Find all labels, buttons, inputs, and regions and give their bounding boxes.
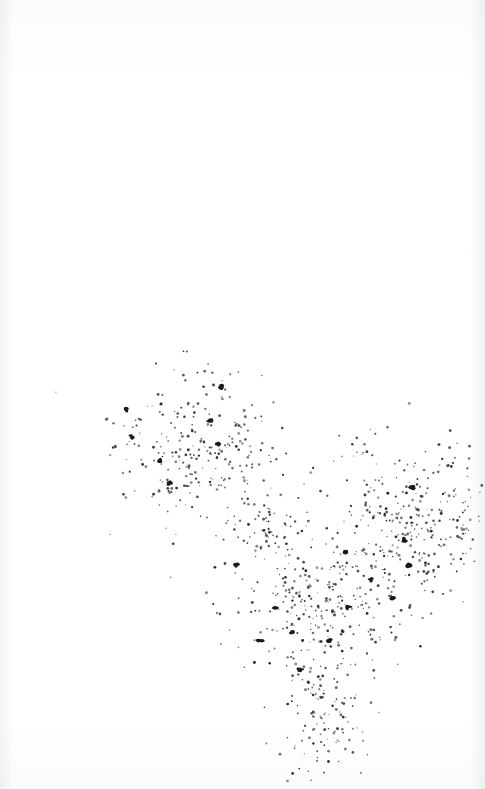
dot bbox=[170, 422, 172, 424]
dot bbox=[225, 522, 227, 524]
dot bbox=[171, 451, 173, 453]
dot bbox=[186, 466, 188, 468]
dot bbox=[416, 514, 418, 516]
dot bbox=[220, 485, 222, 487]
dot bbox=[262, 518, 265, 521]
dot bbox=[258, 463, 261, 466]
dot bbox=[326, 495, 329, 498]
dot bbox=[268, 511, 271, 514]
dot bbox=[381, 530, 383, 532]
dot bbox=[336, 727, 339, 730]
dot bbox=[183, 416, 185, 418]
dot bbox=[337, 665, 339, 667]
dot bbox=[181, 435, 184, 438]
dot bbox=[157, 393, 160, 396]
dot bbox=[296, 632, 298, 634]
dot bbox=[448, 446, 451, 449]
dot bbox=[343, 521, 345, 523]
dot bbox=[346, 479, 348, 481]
dot bbox=[344, 604, 345, 605]
dot bbox=[275, 552, 276, 553]
dot bbox=[214, 452, 216, 454]
dot bbox=[306, 649, 307, 650]
dot bbox=[254, 550, 256, 552]
dot bbox=[355, 437, 358, 440]
dot bbox=[278, 609, 279, 610]
dot bbox=[237, 611, 239, 613]
dot bbox=[439, 464, 441, 466]
dot bbox=[368, 606, 370, 608]
dot bbox=[334, 701, 335, 702]
dot bbox=[205, 591, 208, 594]
dot bbox=[406, 533, 409, 536]
dot-blob bbox=[219, 384, 224, 388]
dot bbox=[444, 492, 446, 494]
dot bbox=[301, 530, 304, 533]
dot bbox=[294, 745, 296, 747]
dot bbox=[384, 568, 386, 570]
dot bbox=[182, 462, 184, 464]
dot-blob bbox=[157, 460, 162, 463]
dot bbox=[430, 612, 432, 614]
dot bbox=[432, 472, 434, 474]
dot bbox=[285, 596, 287, 598]
dot bbox=[185, 504, 186, 505]
dot bbox=[260, 415, 262, 417]
dot bbox=[401, 533, 404, 536]
dot bbox=[329, 598, 332, 601]
dot bbox=[364, 494, 367, 497]
dot bbox=[152, 493, 155, 496]
dot bbox=[307, 681, 310, 684]
dot bbox=[267, 536, 269, 538]
dot bbox=[370, 487, 372, 489]
dot bbox=[202, 385, 205, 388]
dot bbox=[434, 523, 436, 525]
dot bbox=[343, 658, 345, 660]
dot bbox=[480, 484, 483, 487]
dot bbox=[337, 739, 339, 741]
dot bbox=[134, 443, 136, 445]
dot bbox=[297, 713, 299, 715]
dot bbox=[126, 459, 127, 460]
dot bbox=[437, 470, 440, 473]
dot bbox=[374, 641, 377, 644]
dot bbox=[194, 471, 197, 474]
dot bbox=[331, 611, 334, 614]
dot bbox=[260, 548, 262, 550]
dot bbox=[243, 479, 246, 482]
dot bbox=[325, 597, 328, 600]
dot bbox=[372, 669, 375, 672]
dot bbox=[469, 518, 472, 521]
dot bbox=[204, 446, 205, 447]
dot bbox=[318, 699, 320, 701]
dot bbox=[219, 449, 221, 451]
dot bbox=[286, 515, 288, 517]
dot bbox=[291, 606, 294, 609]
dot bbox=[268, 531, 271, 534]
dot bbox=[295, 592, 298, 595]
dot bbox=[359, 596, 361, 598]
dot bbox=[306, 579, 308, 581]
dot bbox=[354, 664, 356, 666]
dot bbox=[283, 538, 284, 539]
dot bbox=[321, 617, 323, 619]
dot bbox=[193, 416, 195, 418]
dot-blob bbox=[299, 668, 304, 670]
dot bbox=[296, 615, 297, 616]
dot bbox=[301, 740, 303, 742]
dot bbox=[301, 599, 303, 601]
dot bbox=[312, 467, 314, 469]
dot bbox=[324, 712, 325, 713]
dot bbox=[190, 457, 192, 459]
dot bbox=[272, 592, 273, 593]
dot bbox=[462, 601, 463, 602]
dot bbox=[207, 460, 209, 462]
dot bbox=[206, 516, 208, 518]
dot bbox=[355, 694, 356, 695]
dot bbox=[286, 627, 288, 629]
dot bbox=[309, 641, 310, 642]
dot bbox=[191, 506, 193, 508]
dot bbox=[337, 532, 339, 534]
dot bbox=[254, 610, 256, 612]
dot bbox=[255, 545, 258, 548]
